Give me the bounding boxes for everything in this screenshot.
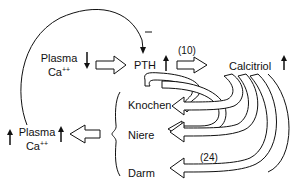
darm-label: Darm [128, 167, 155, 179]
ca-text: Ca [26, 140, 40, 152]
niere-label: Niere [128, 129, 154, 141]
plasma-ca-high-label: Plasma Ca++ [15, 126, 59, 152]
up-arrow-icon [163, 55, 169, 71]
down-arrow-icon [84, 52, 90, 69]
up-arrow-icon [281, 55, 287, 70]
plasma-text: Plasma [15, 126, 59, 138]
ref-10-label: (10) [178, 45, 196, 57]
pth-label: PTH [134, 59, 156, 71]
calcitriol-label: Calcitriol [229, 60, 271, 72]
ca-text: Ca [48, 66, 62, 78]
ref-24-label: (24) [200, 152, 218, 164]
plasma-text: Plasma [37, 52, 81, 64]
hollow-arrow-organs-to-plasma [70, 125, 100, 143]
knochen-label: Knochen [128, 99, 171, 111]
hollow-arrow-pth-to-calcitriol [177, 57, 207, 73]
up-arrow-icon [7, 129, 13, 145]
feedback-arrowhead [140, 47, 146, 54]
diagram-canvas [0, 0, 294, 186]
plasma-ca-low-label: Plasma Ca++ [37, 52, 81, 78]
organ-group-brace [112, 92, 120, 176]
charge-text: ++ [40, 140, 48, 147]
hollow-arrow-plasma-to-pth [96, 56, 126, 74]
charge-text: ++ [62, 66, 70, 73]
